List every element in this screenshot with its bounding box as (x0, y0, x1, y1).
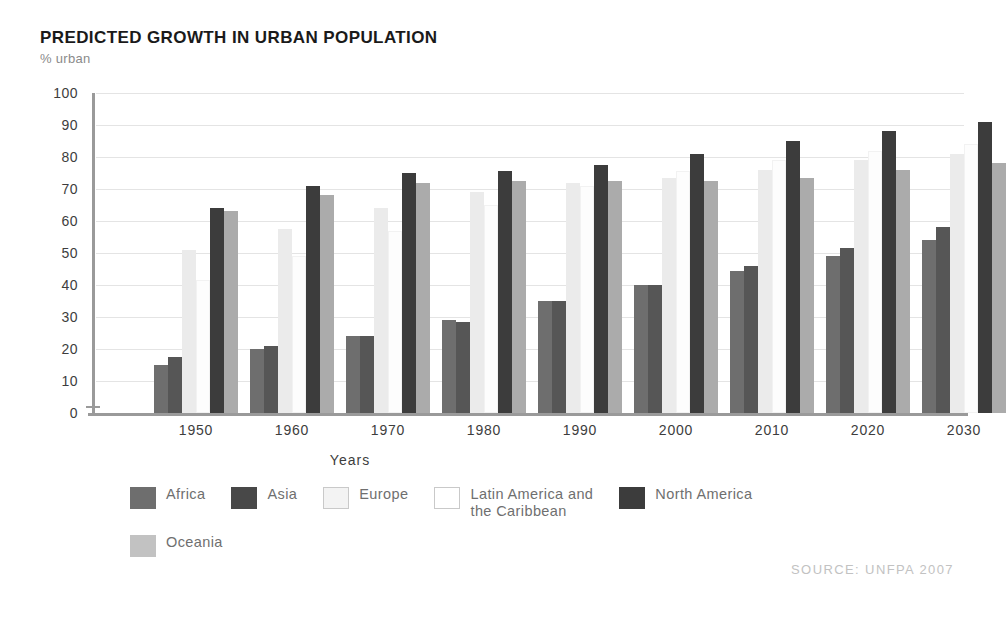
bar-group-1960 (250, 93, 334, 413)
bar-africa-2000 (634, 285, 648, 413)
bar-north-2000 (690, 154, 704, 413)
legend-label: North America (655, 486, 752, 503)
legend-item-europe[interactable]: Europe (323, 486, 408, 509)
x-tick-label-1950: 1950 (161, 422, 231, 438)
bar-latin-2010 (772, 160, 786, 413)
y-tick-label-10: 10 (40, 374, 78, 388)
legend-item-africa[interactable]: Africa (130, 486, 205, 509)
legend-swatch-latin-icon (434, 487, 460, 509)
legend-row: Oceania (130, 534, 930, 557)
bar-africa-1950 (154, 365, 168, 413)
legend-swatch-africa-icon (130, 487, 156, 509)
bar-asia-2010 (744, 266, 758, 413)
source-note: SOURCE: UNFPA 2007 (791, 562, 954, 577)
bar-north-1990 (594, 165, 608, 413)
bar-asia-1970 (360, 336, 374, 413)
bar-oceania-2020 (896, 170, 910, 413)
bar-latin-2000 (676, 171, 690, 413)
bar-latin-1970 (388, 231, 402, 413)
legend-label: Latin America and the Caribbean (470, 486, 593, 520)
bar-oceania-1990 (608, 181, 622, 413)
legend-label: Europe (359, 486, 408, 503)
legend-item-oceania[interactable]: Oceania (130, 534, 223, 557)
bar-oceania-1960 (320, 195, 334, 413)
bar-latin-1980 (484, 205, 498, 413)
bar-africa-1970 (346, 336, 360, 413)
x-axis-title: Years (0, 452, 700, 468)
bar-latin-1950 (196, 280, 210, 413)
y-tick-label-30: 30 (40, 310, 78, 324)
zero-tick-mark (86, 406, 100, 408)
bar-africa-2030 (922, 240, 936, 413)
legend-label: Africa (166, 486, 205, 503)
legend: AfricaAsiaEuropeLatin America and the Ca… (130, 486, 930, 571)
y-tick-label-70: 70 (40, 182, 78, 196)
bar-north-2020 (882, 131, 896, 413)
x-axis-tick-labels: 195019601970198019902000201020202030 (96, 422, 964, 444)
y-tick-label-100: 100 (40, 86, 78, 100)
bar-asia-2000 (648, 285, 662, 413)
bar-europe-1950 (182, 250, 196, 413)
x-tick-label-2010: 2010 (737, 422, 807, 438)
bar-north-1980 (498, 171, 512, 413)
bar-africa-1980 (442, 320, 456, 413)
bar-north-1950 (210, 208, 224, 413)
bar-north-2010 (786, 141, 800, 413)
plot-area (96, 93, 964, 413)
bar-oceania-2010 (800, 178, 814, 413)
bar-europe-2020 (854, 160, 868, 413)
title-block: PREDICTED GROWTH IN URBAN POPULATION % u… (40, 28, 740, 67)
y-tick-label-20: 20 (40, 342, 78, 356)
x-tick-label-2030: 2030 (929, 422, 999, 438)
bar-north-1970 (402, 173, 416, 413)
x-tick-label-1960: 1960 (257, 422, 327, 438)
bar-asia-2030 (936, 227, 950, 413)
x-tick-label-2000: 2000 (641, 422, 711, 438)
legend-item-north[interactable]: North America (619, 486, 752, 509)
y-tick-label-60: 60 (40, 214, 78, 228)
bar-group-2010 (730, 93, 814, 413)
bar-group-2000 (634, 93, 718, 413)
bar-europe-2010 (758, 170, 772, 413)
chart-page: PREDICTED GROWTH IN URBAN POPULATION % u… (0, 0, 1006, 619)
legend-swatch-north-icon (619, 487, 645, 509)
bar-europe-2030 (950, 154, 964, 413)
bar-group-1980 (442, 93, 526, 413)
bar-latin-1960 (292, 256, 306, 413)
bar-oceania-1970 (416, 183, 430, 413)
bar-africa-1960 (250, 349, 264, 413)
bar-africa-2020 (826, 256, 840, 413)
plot-frame: 1009080706050403020100 19501960197019801… (40, 88, 970, 428)
bar-oceania-2000 (704, 181, 718, 413)
legend-swatch-oceania-icon (130, 535, 156, 557)
x-axis-line (88, 413, 968, 416)
legend-item-asia[interactable]: Asia (231, 486, 297, 509)
bar-group-2030 (922, 93, 1006, 413)
legend-item-latin[interactable]: Latin America and the Caribbean (434, 486, 593, 520)
bar-asia-2020 (840, 248, 854, 413)
y-tick-label-50: 50 (40, 246, 78, 260)
bar-europe-1980 (470, 192, 484, 413)
y-tick-label-0: 0 (40, 406, 78, 420)
bar-europe-2000 (662, 178, 676, 413)
bar-oceania-1950 (224, 211, 238, 413)
bar-asia-1980 (456, 322, 470, 413)
legend-swatch-europe-icon (323, 487, 349, 509)
bar-europe-1990 (566, 183, 580, 413)
bar-europe-1960 (278, 229, 292, 413)
bar-group-1990 (538, 93, 622, 413)
legend-swatch-asia-icon (231, 487, 257, 509)
bar-asia-1960 (264, 346, 278, 413)
bar-oceania-1980 (512, 181, 526, 413)
bar-latin-2030 (964, 144, 978, 413)
x-tick-label-1970: 1970 (353, 422, 423, 438)
y-tick-label-80: 80 (40, 150, 78, 164)
bar-group-1970 (346, 93, 430, 413)
y-tick-label-40: 40 (40, 278, 78, 292)
page-title: PREDICTED GROWTH IN URBAN POPULATION (40, 28, 740, 48)
bar-group-1950 (154, 93, 238, 413)
bar-oceania-2030 (992, 163, 1006, 413)
bar-group-2020 (826, 93, 910, 413)
y-axis-tick-labels: 1009080706050403020100 (40, 88, 78, 418)
bar-north-2030 (978, 122, 992, 413)
